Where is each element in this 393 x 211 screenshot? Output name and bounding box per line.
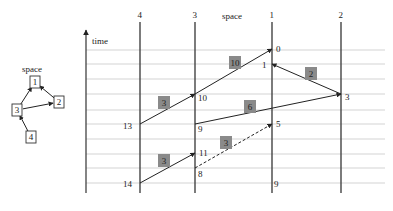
- message-arrow: [195, 49, 272, 94]
- weight-label: 3: [224, 138, 229, 148]
- message-arrow: [195, 124, 272, 168]
- spacetime-diagram: space 1234 time space 4312 1023633 01310…: [0, 0, 393, 211]
- weight-label: 3: [162, 98, 167, 108]
- event-label: 11: [199, 148, 208, 158]
- graph-node-label: 4: [29, 132, 34, 142]
- weight-label: 10: [231, 58, 241, 68]
- time-axis-label: time: [92, 36, 108, 46]
- event-label: 13: [123, 121, 133, 131]
- space-graph: space 1234: [12, 64, 64, 143]
- process-label: 3: [193, 10, 198, 20]
- event-label: 9: [274, 179, 279, 189]
- event-label: 1: [262, 60, 267, 70]
- graph-edge: [20, 87, 32, 105]
- weight-label: 3: [162, 156, 167, 166]
- graph-edge: [20, 115, 28, 131]
- time-axis: time: [86, 30, 108, 193]
- weight-label: 2: [309, 69, 314, 79]
- event-label: 3: [345, 92, 350, 102]
- graph-edge: [40, 86, 55, 98]
- event-label: 14: [123, 179, 133, 189]
- process-label: 2: [339, 10, 344, 20]
- process-label: 1: [270, 10, 275, 20]
- graph-node-label: 2: [57, 97, 62, 107]
- event-label: 0: [276, 44, 281, 54]
- messages: 1023633: [140, 49, 341, 183]
- graph-node-label: 3: [15, 105, 20, 115]
- process-label: 4: [138, 10, 143, 20]
- weight-label: 6: [248, 102, 253, 112]
- event-label: 8: [198, 169, 203, 179]
- space-graph-title: space: [22, 64, 42, 74]
- graph-edge: [23, 103, 53, 109]
- event-label: 9: [198, 124, 203, 134]
- space-axis-label: space: [222, 11, 242, 21]
- event-label: 10: [198, 93, 208, 103]
- graph-node-label: 1: [33, 77, 38, 87]
- message-arrow: [195, 94, 341, 124]
- event-label: 5: [276, 119, 281, 129]
